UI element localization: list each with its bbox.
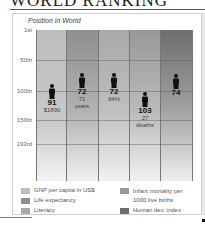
person-icon	[110, 73, 118, 88]
panel-shadow	[202, 13, 205, 215]
rank-value: 72	[99, 88, 129, 96]
marker-literacy: 72 94%	[99, 73, 129, 103]
person-icon	[48, 84, 56, 99]
rank-value: 91	[37, 99, 67, 107]
rank-value: 103	[130, 107, 160, 115]
legend-swatch	[21, 198, 30, 204]
marker-infant-mortality: 103 27 deaths	[130, 92, 160, 129]
marker-human-dev: 74	[161, 74, 191, 97]
legend-swatch	[21, 208, 30, 214]
legend-item-infant-mortality: Infant mortality per 1000 live births	[120, 187, 183, 207]
marker-gnp: 91 $1890	[37, 84, 67, 114]
chart-title: Position in World	[28, 17, 81, 24]
person-icon	[78, 73, 86, 88]
bullet-marker	[202, 219, 205, 222]
legend-item-gnp: GNP per capita in US$	[21, 187, 95, 197]
y-tick-193rd: 193rd	[17, 141, 32, 147]
legend-item-life-expectancy: Life expectancy	[21, 197, 95, 207]
y-tick-150th: 150th	[17, 117, 32, 123]
legend-swatch	[120, 208, 129, 214]
legend-label: Infant mortality per 1000 live births	[133, 187, 183, 205]
legend-label: Life expectancy	[34, 197, 76, 203]
detail-value: 71	[67, 96, 97, 103]
gridline-193rd	[36, 144, 193, 145]
marker-life-expectancy: 72 71 years	[67, 73, 97, 110]
legend-left: GNP per capita in US$ Life expectancy Li…	[21, 187, 95, 217]
rank-value: 72	[67, 88, 97, 96]
detail-unit: years	[67, 103, 97, 110]
title-rule	[10, 9, 205, 10]
legend-right: Infant mortality per 1000 live births Hu…	[120, 187, 183, 217]
detail-value: 27	[130, 115, 160, 122]
legend-label: Literacy	[34, 207, 55, 213]
legend-label: GNP per capita in US$	[34, 187, 95, 193]
detail-value: $1890	[37, 107, 67, 114]
gridline-50th	[36, 60, 193, 61]
legend-item-literacy: Literacy	[21, 207, 95, 217]
detail-value: 94%	[99, 96, 129, 103]
person-icon	[172, 74, 180, 89]
detail-unit: deaths	[130, 122, 160, 129]
y-tick-50th: 50th	[20, 57, 32, 63]
person-icon	[141, 92, 149, 107]
column-human-dev	[161, 30, 193, 181]
legend-swatch	[120, 188, 129, 194]
column-literacy	[99, 30, 130, 181]
y-tick-1st: 1st	[24, 27, 32, 33]
y-tick-100th: 100th	[17, 88, 32, 94]
gridline-150th	[36, 120, 193, 121]
rank-value: 74	[161, 89, 191, 97]
legend-item-human-dev: Human dev. index	[120, 207, 183, 217]
legend-swatch	[21, 188, 30, 194]
bottom-rule	[0, 217, 32, 218]
legend-label: Human dev. index	[133, 207, 181, 213]
